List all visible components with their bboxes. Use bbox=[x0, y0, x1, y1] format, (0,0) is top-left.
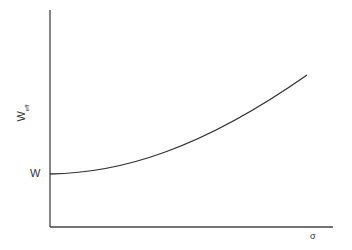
y-tick-w: W bbox=[30, 167, 40, 179]
y-axis-label: Weff bbox=[15, 105, 29, 122]
chart-canvas bbox=[0, 0, 352, 250]
weff-curve bbox=[50, 75, 307, 174]
x-axis-label: σ bbox=[310, 231, 316, 241]
